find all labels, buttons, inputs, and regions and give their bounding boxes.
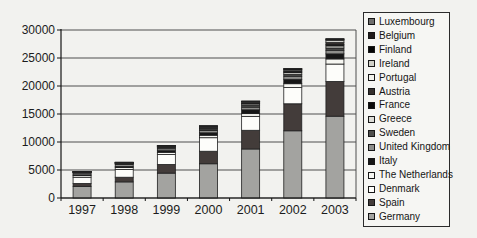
bar-segment-germany-1999 [157,173,175,198]
bar-segment-spain-2000 [200,151,218,164]
y-axis-tick-label: 10000 [22,135,56,149]
bar-segment-germany-2000 [200,164,218,198]
legend-swatch-icon [368,130,375,137]
legend-item-france: France [368,99,449,112]
legend-item-united-kingdom: United Kingdom [368,141,449,154]
legend-swatch-icon [368,102,375,109]
legend-swatch-icon [368,74,375,81]
x-axis-tick-label: 2003 [321,203,349,217]
x-axis-tick-label: 1997 [68,203,96,217]
legend-item-greece: Greece [368,113,449,126]
legend-item-luxembourg: Luxembourg [368,15,449,28]
legend-swatch-icon [368,144,375,151]
legend-swatch-icon [368,32,375,39]
bar-segment-italy-2002 [284,79,302,83]
legend-item-label: Austria [379,87,410,97]
bar-segment-spain-1998 [115,177,133,182]
x-axis-tick-label: 1999 [152,203,180,217]
legend-item-label: Greece [379,114,412,124]
legend-item-label: France [379,100,410,110]
chart-legend: LuxembourgBelgiumFinlandIrelandPortugalA… [363,12,450,227]
legend-swatch-icon [368,88,375,95]
legend-item-italy: Italy [368,155,449,168]
legend-item-ireland: Ireland [368,57,449,70]
legend-swatch-icon [368,46,375,53]
legend-item-finland: Finland [368,43,449,56]
y-axis-tick-label: 30000 [22,23,56,37]
legend-item-label: The Netherlands [379,170,453,180]
legend-swatch-icon [368,158,375,165]
bar-segment-spain-2001 [242,130,260,149]
legend-item-label: Spain [379,198,405,208]
legend-swatch-icon [368,186,375,193]
legend-item-label: Luxembourg [379,17,435,27]
legend-swatch-icon [368,18,375,25]
bar-segment-denmark-1999 [157,155,175,165]
legend-item-label: Finland [379,45,412,55]
bar-segment-united-kingdom-2002 [284,76,302,79]
bar-segment-the-netherlands-2002 [284,84,302,88]
legend-item-germany: Germany [368,210,449,223]
y-axis-tick-label: 5000 [28,163,55,177]
bar-segment-denmark-2000 [200,138,218,152]
eu-stacked-bar-chart: 0500010000150002000025000300001997199819… [0,0,477,238]
bar-segment-germany-2003 [326,116,344,198]
legend-item-portugal: Portugal [368,71,449,84]
x-axis-tick-label: 2002 [279,203,307,217]
bar-segment-denmark-2001 [242,116,260,130]
y-axis-tick-label: 15000 [22,107,56,121]
bar-segment-denmark-2003 [326,64,344,81]
bar-segment-spain-1997 [73,183,91,186]
legend-item-label: United Kingdom [379,142,450,152]
bar-segment-italy-2001 [242,110,260,114]
scanned-chart-page: 0500010000150002000025000300001997199819… [0,0,477,238]
legend-swatch-icon [368,60,375,67]
bar-segment-spain-2003 [326,81,344,116]
legend-swatch-icon [368,213,375,220]
legend-item-the-netherlands: The Netherlands [368,169,449,182]
y-axis-tick-label: 0 [48,191,55,205]
bar-segment-spain-1999 [157,164,175,173]
legend-item-label: Italy [379,156,397,166]
legend-item-spain: Spain [368,196,449,209]
bar-segment-the-netherlands-2001 [242,114,260,117]
x-axis-tick-label: 1998 [110,203,138,217]
legend-swatch-icon [368,172,375,179]
legend-swatch-icon [368,199,375,206]
legend-item-label: Ireland [379,59,410,69]
bar-segment-germany-2001 [242,149,260,198]
bar-segment-denmark-1997 [73,177,91,183]
legend-item-label: Belgium [379,31,415,41]
bar-segment-italy-2003 [326,54,344,59]
legend-item-denmark: Denmark [368,183,449,196]
legend-item-sweden: Sweden [368,127,449,140]
bar-segment-germany-2002 [284,131,302,198]
bar-segment-germany-1998 [115,182,133,198]
legend-item-label: Sweden [379,128,415,138]
legend-item-label: Denmark [379,184,420,194]
legend-item-label: Germany [379,212,420,222]
bar-segment-spain-2002 [284,104,302,131]
bar-segment-germany-1997 [73,186,91,198]
legend-item-label: Portugal [379,73,416,83]
legend-swatch-icon [368,116,375,123]
bar-segment-denmark-1998 [115,169,133,177]
legend-item-belgium: Belgium [368,29,449,42]
y-axis-tick-label: 25000 [22,51,56,65]
legend-item-austria: Austria [368,85,449,98]
bar-segment-the-netherlands-2003 [326,59,344,64]
bar-segment-denmark-2002 [284,88,302,104]
x-axis-tick-label: 2000 [195,203,223,217]
x-axis-tick-label: 2001 [237,203,265,217]
bar-segment-united-kingdom-2003 [326,50,344,54]
y-axis-tick-label: 20000 [22,79,56,93]
